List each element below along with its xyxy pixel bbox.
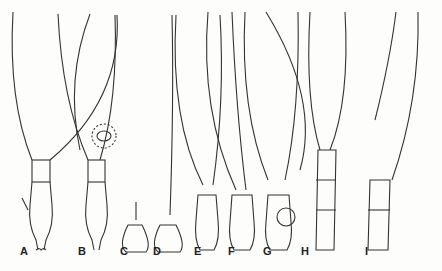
label-h: H xyxy=(301,245,309,257)
botanical-figure: A B C D E F G H I xyxy=(0,0,442,271)
label-c: C xyxy=(120,245,128,257)
figure-drawing xyxy=(0,0,442,271)
specimen-b xyxy=(58,14,116,250)
label-b: B xyxy=(78,245,86,257)
label-g: G xyxy=(263,245,272,257)
label-i: I xyxy=(365,245,368,257)
specimen-h xyxy=(309,12,346,250)
specimen-f xyxy=(207,12,255,250)
specimen-d xyxy=(154,15,182,252)
label-f: F xyxy=(228,245,235,257)
specimen-i xyxy=(368,12,418,250)
label-a: A xyxy=(20,245,28,257)
specimen-e xyxy=(175,15,221,250)
label-d: D xyxy=(153,245,161,257)
label-e: E xyxy=(194,245,201,257)
